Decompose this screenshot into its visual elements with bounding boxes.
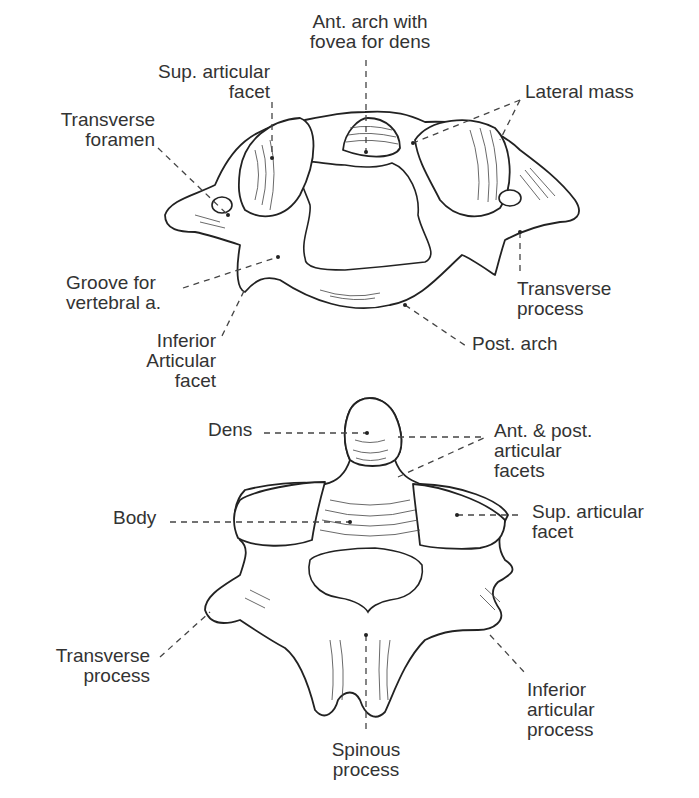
label-inferior-articular-process: Inferior articular process — [527, 680, 595, 740]
label-line: Dens — [208, 420, 252, 440]
vertebrae-diagram: Ant. arch with fovea for dens Sup. artic… — [0, 0, 699, 798]
label-ant-post-articular-facets: Ant. & post. articular facets — [494, 421, 592, 481]
label-line: vertebral a. — [66, 293, 161, 313]
label-line: Ant. arch with — [300, 12, 440, 32]
label-line: Transverse — [30, 646, 150, 666]
label-line: Post. arch — [472, 334, 558, 354]
label-line: facet — [110, 371, 216, 391]
label-line: process — [527, 720, 595, 740]
label-transverse-foramen: Transverse foramen — [30, 110, 155, 150]
label-line: Articular — [110, 351, 216, 371]
label-line: Spinous — [306, 740, 426, 760]
axis-drawing — [205, 398, 513, 717]
label-line: facet — [532, 522, 644, 542]
label-line: foramen — [30, 130, 155, 150]
label-line: process — [306, 760, 426, 780]
label-line: Inferior — [110, 331, 216, 351]
label-dens: Dens — [208, 420, 252, 440]
label-line: Sup. articular — [532, 502, 644, 522]
label-line: Body — [113, 508, 156, 528]
label-line: articular — [494, 441, 592, 461]
label-line: process — [517, 299, 611, 319]
label-line: Groove for — [66, 273, 161, 293]
label-line: facets — [494, 461, 592, 481]
label-line: articular — [527, 700, 595, 720]
label-groove-vertebral: Groove for vertebral a. — [66, 273, 161, 313]
label-sup-articular-facet-axis: Sup. articular facet — [532, 502, 644, 542]
label-line: Transverse — [30, 110, 155, 130]
label-line: fovea for dens — [300, 32, 440, 52]
label-post-arch: Post. arch — [472, 334, 558, 354]
label-line: Sup. articular — [120, 62, 270, 82]
label-transverse-process-axis: Transverse process — [30, 646, 150, 686]
label-transverse-process-atlas: Transverse process — [517, 279, 611, 319]
label-line: Inferior — [527, 680, 595, 700]
label-spinous-process: Spinous process — [306, 740, 426, 780]
label-line: process — [30, 666, 150, 686]
label-line: facet — [120, 82, 270, 102]
label-sup-articular-facet-atlas: Sup. articular facet — [120, 62, 270, 102]
label-line: Transverse — [517, 279, 611, 299]
label-lateral-mass: Lateral mass — [525, 82, 634, 102]
label-body: Body — [113, 508, 156, 528]
label-line: Lateral mass — [525, 82, 634, 102]
label-line: Ant. & post. — [494, 421, 592, 441]
label-inferior-articular-facet: Inferior Articular facet — [110, 331, 216, 391]
label-ant-arch: Ant. arch with fovea for dens — [300, 12, 440, 52]
